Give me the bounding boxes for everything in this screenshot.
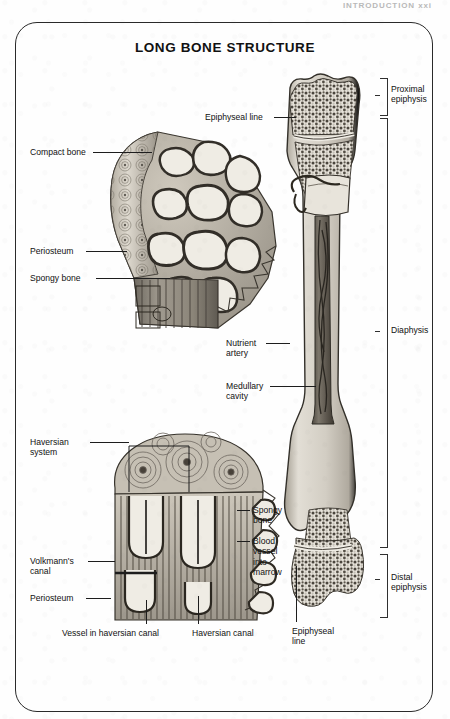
leader-epiphyseal-line-top bbox=[274, 117, 296, 118]
leader-compact-bone bbox=[93, 152, 152, 153]
leader-periosteum-upper bbox=[86, 251, 127, 252]
leader-blood-vessel-into-marrow bbox=[237, 541, 250, 542]
leader-spongy-bone-upper bbox=[96, 278, 170, 279]
label-spongy-bone-lower: Spongy bone bbox=[253, 505, 282, 526]
label-diaphysis: Diaphysis bbox=[391, 325, 428, 335]
leader-epiphyseal-line-bottom bbox=[296, 566, 297, 622]
figure-title: LONG BONE STRUCTURE bbox=[0, 40, 450, 55]
bracket-distal-epiphysis bbox=[380, 554, 388, 618]
label-periosteum-upper: Periosteum bbox=[30, 246, 73, 256]
haversian-cutaway-art bbox=[85, 430, 285, 625]
leader-periosteum-lower bbox=[86, 598, 111, 599]
label-proximal-epiphysis: Proximal epiphysis bbox=[391, 84, 427, 105]
label-haversian-canal: Haversian canal bbox=[192, 628, 254, 638]
label-periosteum-lower: Periosteum bbox=[30, 593, 73, 603]
leader-volkmanns-canal bbox=[88, 561, 115, 562]
label-compact-bone: Compact bone bbox=[30, 147, 86, 157]
whole-femur-art bbox=[276, 70, 380, 618]
leader-vessel-in-haversian-canal bbox=[146, 600, 147, 624]
running-head: INTRODUCTION xxi bbox=[343, 1, 432, 10]
bracket-diaphysis bbox=[380, 118, 388, 548]
label-nutrient-artery: Nutrient artery bbox=[226, 338, 256, 359]
label-haversian-system: Haversian system bbox=[30, 437, 69, 458]
bracket-proximal-epiphysis bbox=[380, 78, 388, 116]
leader-spongy-bone-lower bbox=[237, 510, 250, 511]
label-medullary-cavity: Medullary cavity bbox=[226, 381, 263, 402]
proximal-cutaway-art bbox=[100, 128, 290, 333]
label-distal-epiphysis: Distal epiphysis bbox=[391, 572, 427, 593]
leader-medullary-cavity bbox=[270, 386, 316, 387]
leader-haversian-system bbox=[90, 442, 129, 443]
leader-nutrient-artery bbox=[266, 343, 290, 344]
leader-haversian-canal bbox=[198, 596, 199, 624]
label-volkmanns-canal: Volkmann's canal bbox=[30, 556, 74, 577]
label-epiphyseal-line-bottom: Epiphyseal line bbox=[292, 626, 334, 647]
label-epiphyseal-line-top: Epiphyseal line bbox=[205, 112, 263, 122]
label-spongy-bone-upper: Spongy bone bbox=[30, 273, 81, 283]
label-blood-vessel-into-marrow: Blood vessel into marrow bbox=[253, 536, 282, 578]
label-vessel-in-haversian-canal: Vessel in haversian canal bbox=[62, 628, 159, 638]
